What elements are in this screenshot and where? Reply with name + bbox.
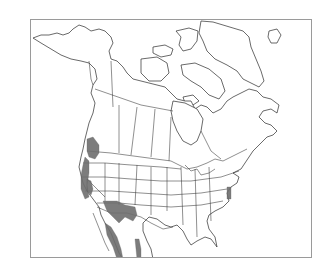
arctic-island-baffin <box>181 63 225 99</box>
iceland <box>268 29 281 43</box>
range-chesapeake <box>227 187 231 199</box>
north-america-range-map <box>31 20 312 258</box>
arctic-island-victoria <box>141 57 169 81</box>
arctic-island-ellesmere <box>176 28 198 51</box>
arctic-island-group <box>153 45 173 57</box>
map-frame <box>30 19 312 258</box>
